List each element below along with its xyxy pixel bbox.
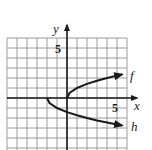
graph: y 5 x 5 f h (0, 0, 152, 150)
y-axis-label: y (51, 21, 59, 36)
curve-h (47, 98, 122, 125)
y-tick-5-label: 5 (55, 42, 61, 56)
curve-h-label: h (131, 119, 138, 134)
x-tick-5-label: 5 (112, 101, 118, 115)
curve-f-label: f (130, 68, 136, 83)
x-axis-label: x (133, 98, 140, 113)
